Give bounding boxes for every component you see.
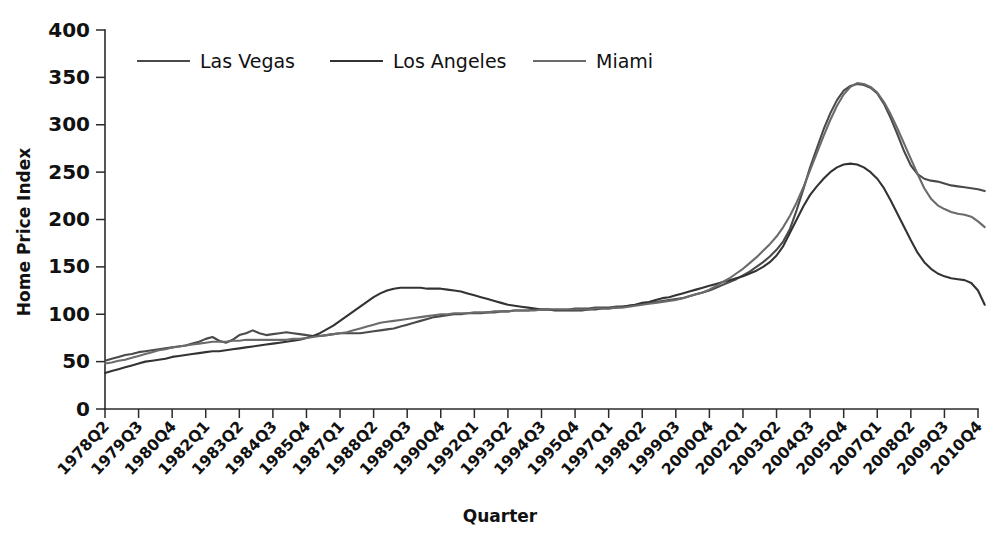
y-tick-label: 200 [48,207,90,231]
y-axis-title: Home Price Index [14,148,34,316]
y-tick-label: 0 [76,397,90,421]
series-line-miami [105,83,985,363]
y-tick-label: 250 [48,160,90,184]
series-line-las-vegas [105,84,985,361]
series-lines-group [105,83,985,373]
axis-lines-group [105,30,978,409]
legend-label-miami: Miami [596,50,653,72]
legend-label-las-vegas: Las Vegas [200,50,295,72]
y-tick-label: 350 [48,65,90,89]
y-tick-label: 150 [48,254,90,278]
x-axis-tick-group: 1978Q21979Q31980Q41982Q11983Q21984Q31985… [54,409,986,479]
y-tick-label: 400 [48,18,90,42]
y-tick-label: 300 [48,112,90,136]
x-axis-title: Quarter [463,506,538,526]
y-tick-label: 50 [62,349,90,373]
legend-label-los-angeles: Los Angeles [393,50,506,72]
y-axis-tick-group: 050100150200250300350400 [48,18,105,421]
chart-container: 050100150200250300350400 1978Q21979Q3198… [0,0,1003,534]
y-tick-label: 100 [48,302,90,326]
home-price-index-line-chart: 050100150200250300350400 1978Q21979Q3198… [0,0,1003,534]
chart-legend: Las VegasLos AngelesMiami [137,50,653,72]
